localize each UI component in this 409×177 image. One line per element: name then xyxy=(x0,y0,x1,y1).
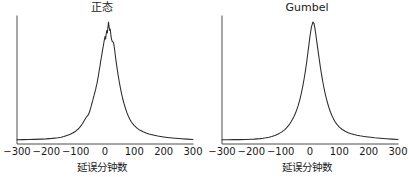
xtick-label: 200 xyxy=(154,146,173,157)
chart-panel-normal: 正态 −300 −200 −100 0 100 200 300 延误分钟数 xyxy=(0,0,204,177)
xtick-label: 300 xyxy=(388,146,407,157)
xtick-label: −200 xyxy=(238,146,265,157)
xaxis-label-normal: 延误分钟数 xyxy=(0,161,204,173)
xtick-label: 100 xyxy=(330,146,349,157)
xtick-label: 0 xyxy=(307,146,313,157)
xtick-label: −100 xyxy=(62,146,89,157)
density-curve-normal xyxy=(17,22,193,140)
xtick-label: −300 xyxy=(3,146,30,157)
axis-spines-normal xyxy=(17,16,193,144)
density-curve-gumbel xyxy=(222,22,398,140)
figure-container: 正态 −300 −200 −100 0 100 200 300 延误分钟数 Gu… xyxy=(0,0,409,177)
xtick-label: −200 xyxy=(33,146,60,157)
chart-panel-gumbel: Gumbel −300 −200 −100 0 100 200 300 延误分钟… xyxy=(205,0,409,177)
xaxis-label-gumbel: 延误分钟数 xyxy=(205,161,409,173)
xtick-label: 0 xyxy=(102,146,108,157)
xtick-label: 200 xyxy=(359,146,378,157)
xtick-label: −300 xyxy=(208,146,235,157)
xtick-label: −100 xyxy=(267,146,294,157)
xtick-label: 100 xyxy=(125,146,144,157)
xtick-label: 300 xyxy=(183,146,202,157)
